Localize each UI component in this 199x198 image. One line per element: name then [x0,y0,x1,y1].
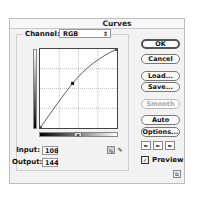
curve-tools: ∿ ✎ [107,146,125,154]
curve-graph[interactable] [39,48,118,129]
curves-dialog: Curves Channel: RGB ⇕ ◂▸ Input: 108 Outp… [9,18,185,184]
options-button[interactable]: Options... [141,127,180,137]
gradient-toggle-icon[interactable]: ◂▸ [74,132,82,137]
select-arrow-icon: ⇕ [103,30,108,38]
curve-plot [40,49,117,128]
ok-button[interactable]: OK [141,39,180,49]
gray-eyedropper-icon[interactable]: ✒ [153,141,163,150]
save-button[interactable]: Save... [141,82,180,92]
resize-icon[interactable]: ⧉ [173,170,181,178]
channel-value: RGB [63,30,78,38]
output-label: Output: [12,158,40,167]
channel-select[interactable]: RGB ⇕ [59,29,111,38]
preview-checkbox[interactable]: ✓ [141,156,149,164]
input-field[interactable]: 108 [42,146,58,155]
pencil-tool-icon[interactable]: ✎ [116,146,124,154]
auto-button[interactable]: Auto [141,115,180,125]
preview-label: Preview [152,156,184,164]
window-title: Curves [10,19,184,28]
input-gradient-bar[interactable]: ◂▸ [39,132,118,137]
title-bar[interactable]: Curves [10,19,184,29]
black-eyedropper-icon[interactable]: ✒ [141,141,151,150]
eyedropper-group: ✒ ✒ ✒ [141,141,176,150]
curve-tool-icon[interactable]: ∿ [107,146,115,154]
channel-label: Channel: [23,29,62,39]
control-point [71,82,74,85]
output-gradient-bar [33,49,37,129]
cancel-button[interactable]: Cancel [141,54,180,64]
white-eyedropper-icon[interactable]: ✒ [165,141,175,150]
preview-toggle[interactable]: ✓Preview [141,156,184,165]
smooth-button[interactable]: Smooth [141,99,180,109]
input-label: Input: [12,146,40,155]
load-button[interactable]: Load... [141,71,180,81]
output-field[interactable]: 144 [42,158,58,167]
